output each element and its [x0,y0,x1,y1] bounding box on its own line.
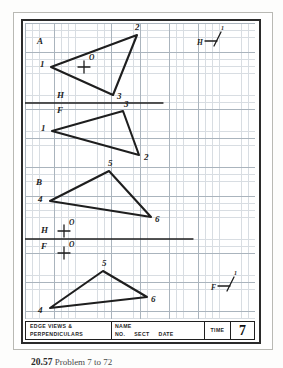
title-block: EDGE VIEWS & PERPENDICULARS NAME NO. SEC… [25,321,255,340]
label-b: B [36,178,42,187]
point-o-top-view-cross [78,61,90,73]
lower-fold-label-h: H [41,226,48,235]
vertex-label-a-top-3: 3 [117,92,122,101]
h1-fold-mark-number: 1 [221,25,224,31]
f1-fold-mark-number: 1 [234,270,237,276]
date-field-label: DATE [159,331,174,339]
vertex-label-a-front-2: 2 [144,153,149,162]
title-block-name-cell[interactable]: NAME NO. SECT DATE [112,322,205,339]
upper-fold-label-h: H [57,91,64,100]
vertex-label-a-front-3: 3 [124,100,129,109]
figure-caption-body: Problem 7 to 72 [55,357,113,367]
triangle-a-front-view [52,111,139,155]
number-field-label: NO. [115,331,125,339]
sheet-number: 7 [239,324,246,338]
vertex-label-b-front-4: 4 [38,306,43,315]
vertex-label-b-top-4: 4 [38,195,43,204]
title-block-time-cell[interactable]: TIME [205,322,231,339]
name-field-row2: NO. SECT DATE [115,331,204,339]
section-field-label: SECT [134,331,149,339]
h1-fold-mark-letter: H [197,39,203,47]
vertex-label-a-front-1: 1 [41,124,46,133]
figure-caption: 20.57 Problem 7 to 72 [31,357,231,368]
vertex-label-a-top-1: 1 [40,60,45,69]
point-label-o-top-view: O [89,54,94,62]
drawing-ink-layer: A B 1 2 3 O H F 1 3 2 4 5 6 H F O O 4 5 … [25,23,255,319]
vertex-label-b-top-6: 6 [155,215,160,224]
vertex-label-a-top-2: 2 [135,23,140,32]
title-block-problem-cell: EDGE VIEWS & PERPENDICULARS [26,322,112,339]
name-field-label: NAME [115,323,204,331]
lower-fold-label-f: F [41,242,47,251]
h1-fold-mark-glyph [205,32,221,46]
vertex-label-b-front-5: 5 [102,259,107,268]
label-a: A [37,37,43,46]
point-label-o-above-lower-fold: O [69,219,74,227]
figure-caption-text: 20.57 Problem 7 to 72 [31,357,231,368]
title-block-sheet-number-cell: 7 [231,322,254,339]
upper-fold-label-f: F [57,106,63,115]
point-label-o-below-lower-fold: O [69,241,74,249]
triangle-b-top-view [50,171,151,217]
worksheet-page: A B 1 2 3 O H F 1 3 2 4 5 6 H F O O 4 5 … [0,0,283,368]
triangle-b-front-view [50,271,147,308]
f1-fold-mark-letter: F [211,284,216,292]
vertex-label-b-front-6: 6 [151,295,156,304]
figure-number: 20.57 [31,357,52,367]
problem-title-line2: PERPENDICULARS [30,331,111,339]
f1-fold-mark-glyph [218,277,234,291]
time-field-label: TIME [211,327,225,335]
vertex-label-b-top-5: 5 [108,159,113,168]
problem-title-line1: EDGE VIEWS & [30,323,111,331]
triangle-a-top-view [51,35,137,95]
construction-drawing [25,23,255,319]
